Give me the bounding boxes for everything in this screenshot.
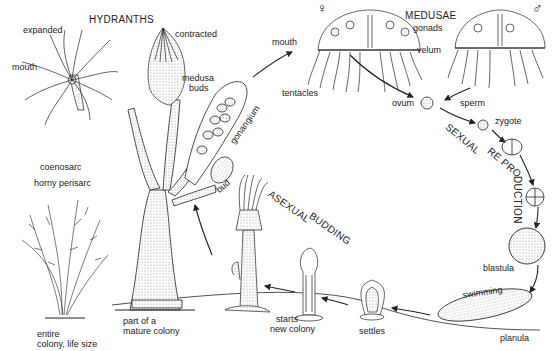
label-part-of-mature-colony-2: mature colony (123, 326, 180, 336)
label-zygote: zygote (495, 116, 522, 126)
label-planula: planula (500, 333, 529, 343)
label-mouth-medusa: mouth (272, 37, 297, 47)
label-tentacles: tentacles (282, 88, 318, 98)
label-part-of-mature-colony-1: part of a (123, 316, 156, 326)
female-symbol: ♀ (317, 1, 328, 15)
settled-polyp-illustration (360, 280, 384, 320)
label-mouth-hydranth: mouth (12, 62, 37, 72)
label-contracted: contracted (175, 29, 217, 39)
young-polyp-illustration (295, 248, 323, 321)
female-medusa-illustration (308, 10, 422, 92)
label-expanded: expanded (23, 25, 63, 35)
label-blastula: blastula (483, 263, 514, 273)
four-cell-stage-illustration (526, 188, 544, 206)
contracted-hydranth-illustration (148, 28, 185, 105)
label-entire-colony-1: entire (37, 329, 60, 339)
ovum-illustration (421, 97, 433, 109)
label-ovum: ovum (392, 98, 414, 108)
male-symbol: ♂ (532, 1, 543, 15)
label-medusa-buds-2: buds (189, 83, 209, 93)
obelia-life-cycle-diagram: HYDRANTHS MEDUSAE ♀ ♂ SEXUAL RE PRO DUCT… (0, 0, 559, 351)
diagram-artwork (0, 0, 559, 351)
entire-colony-illustration (22, 200, 108, 318)
label-settles: settles (359, 326, 385, 336)
label-coenosarc: coenosarc (40, 162, 82, 172)
label-sperm: sperm (460, 98, 485, 108)
label-horny-perisarc: horny perisarc (34, 178, 91, 188)
label-velum: velum (417, 45, 441, 55)
male-medusa-illustration (448, 10, 545, 88)
expanded-hydranth-illustration (22, 30, 118, 125)
label-starts-new-colony-1: starts (276, 314, 298, 324)
blastula-illustration (509, 228, 545, 264)
new-colony-hydranth-illustration (225, 175, 270, 312)
zygote-illustration (478, 120, 488, 130)
label-gonads: gonads (413, 23, 443, 33)
label-starts-new-colony-2: new colony (270, 324, 315, 334)
medusae-title: MEDUSAE (405, 11, 457, 21)
hydranths-title: HYDRANTHS (89, 15, 154, 25)
label-medusa-buds-1: medusa (182, 73, 214, 83)
reproduction-title-part2: DUCTION (512, 176, 522, 224)
label-entire-colony-2: colony, life size (37, 339, 97, 349)
